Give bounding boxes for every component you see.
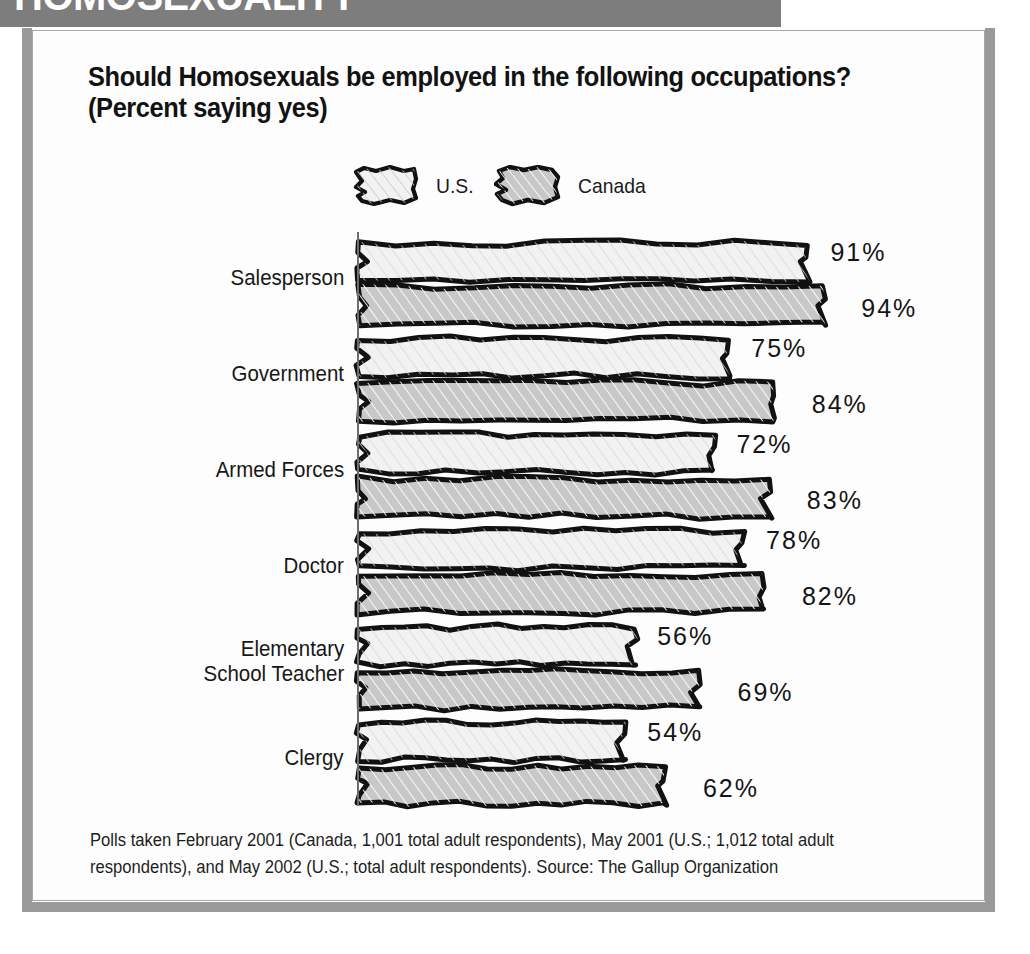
category-label: Doctor (284, 553, 344, 579)
bar-value-label: 56% (657, 622, 713, 651)
category-label: ElementarySchool Teacher (203, 636, 344, 688)
bar-value-label: 75% (751, 334, 807, 363)
bar-value-label: 72% (736, 430, 792, 459)
bar-value-label: 84% (812, 390, 868, 419)
category-label: Government (231, 361, 344, 387)
legend-label-canada: Canada (578, 174, 646, 198)
bar-value-label: 83% (807, 486, 863, 515)
bar-value-label: 69% (738, 678, 794, 707)
legend-swatch-us-icon (352, 165, 420, 207)
bar-value-label: 91% (830, 238, 886, 267)
category-label: Armed Forces (216, 457, 344, 483)
legend-swatch-canada-icon (494, 165, 562, 207)
chart-page: HOMOSEXUALITY Should Homosexuals be empl… (0, 0, 1030, 954)
chart-footnote: Polls taken February 2001 (Canada, 1,001… (90, 827, 841, 881)
bar-value-label: 94% (861, 294, 917, 323)
bar-value-label: 62% (703, 774, 759, 803)
bar-value-label: 82% (802, 582, 858, 611)
category-label: Clergy (285, 745, 344, 771)
bar-value-label: 78% (766, 526, 822, 555)
chart-category-labels: SalespersonGovernmentArmed ForcesDoctorE… (0, 0, 344, 954)
bar-value-label: 54% (647, 718, 703, 747)
legend-label-us: U.S. (436, 174, 474, 198)
category-label: Salesperson (230, 265, 344, 291)
